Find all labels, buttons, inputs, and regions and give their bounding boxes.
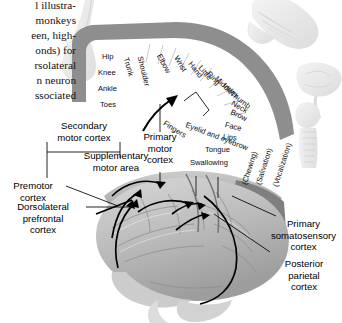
callout-line: Posterior bbox=[268, 258, 340, 270]
callout-line: Secondary bbox=[30, 120, 138, 132]
callout-line: somatosensory bbox=[265, 230, 342, 242]
callout-primary-somatosensory-cortex: Primary somatosensory cortex bbox=[265, 218, 342, 253]
body-text-line: n neuron bbox=[0, 73, 76, 88]
body-text-line: ssociated bbox=[0, 88, 76, 103]
callout-line: cortex bbox=[128, 154, 192, 166]
brain-illustration bbox=[96, 171, 289, 323]
callout-line: Primary bbox=[128, 131, 192, 143]
homunculus-label-hip: Hip bbox=[102, 52, 113, 61]
callout-line: Dorsolateral bbox=[0, 201, 86, 213]
body-text-line: monkeys bbox=[0, 13, 76, 28]
callout-line: Primary bbox=[265, 218, 342, 230]
homunculus-label-toes: Toes bbox=[100, 100, 116, 109]
homunculus-label-tongue: Tongue bbox=[205, 145, 230, 154]
callout-dorsolateral-prefrontal-cortex: Dorsolateral prefrontal cortex bbox=[0, 201, 86, 236]
callout-line: parietal bbox=[268, 270, 340, 282]
callout-primary-motor-cortex: Primary motor cortex bbox=[128, 131, 192, 166]
callout-line: Premotor bbox=[2, 180, 64, 192]
callout-line: motor bbox=[128, 143, 192, 155]
callout-premotor-cortex: Premotor cortex bbox=[2, 180, 64, 203]
homunculus-label-lips: Lips bbox=[223, 132, 238, 142]
body-text-column: l illustra- monkeys een, high- onds) for… bbox=[0, 0, 76, 103]
callout-line: motor cortex bbox=[30, 132, 138, 144]
callout-line: cortex bbox=[268, 281, 340, 293]
ghost-trachea-illustration bbox=[295, 102, 320, 168]
homunculus-label-knee: Knee bbox=[98, 68, 116, 77]
body-text-line: een, high- bbox=[0, 28, 76, 43]
callout-line: cortex bbox=[265, 241, 342, 253]
homunculus-label-swallowing: Swallowing bbox=[190, 158, 228, 167]
homunculus-label-ankle: Ankle bbox=[98, 84, 117, 93]
callout-secondary-motor-cortex: Secondary motor cortex bbox=[30, 120, 138, 143]
body-text-line: l illustra- bbox=[0, 0, 76, 13]
callout-line: prefrontal bbox=[0, 213, 86, 225]
callout-line: cortex bbox=[0, 224, 86, 236]
body-text-line: rsolateral bbox=[0, 58, 76, 73]
figure-canvas: l illustra- monkeys een, high- onds) for… bbox=[0, 0, 342, 323]
body-text-line: onds) for bbox=[0, 43, 76, 58]
ghost-hand-illustration bbox=[248, 0, 318, 49]
callout-posterior-parietal-cortex: Posterior parietal cortex bbox=[268, 258, 340, 293]
